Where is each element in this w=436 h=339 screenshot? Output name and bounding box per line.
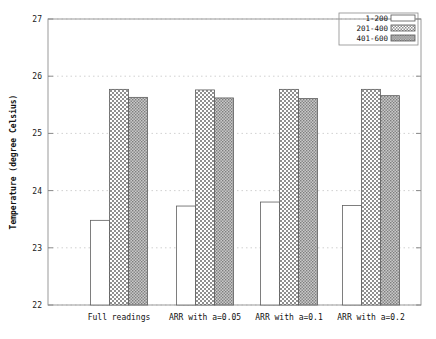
- y-tick-label: 23: [32, 244, 42, 253]
- y-tick-label: 22: [32, 301, 42, 310]
- legend-swatch-401-600: [391, 35, 415, 41]
- bar: [261, 202, 280, 305]
- y-tick-label: 24: [32, 187, 42, 196]
- bar: [280, 89, 299, 305]
- x-tick-label: Full readings: [88, 313, 151, 322]
- y-tick-label: 27: [32, 15, 42, 24]
- bar-chart: 22 23 24 25 26 27 Temperature (degree Ce…: [0, 0, 436, 339]
- x-tick-label: ARR with a=0.1: [255, 313, 323, 322]
- y-axis-title: Temperature (degree Celsius): [8, 95, 18, 230]
- legend-item-label: 401-600: [356, 34, 388, 43]
- bar: [343, 205, 362, 305]
- bar: [299, 99, 318, 305]
- bar: [381, 96, 400, 305]
- y-tick-label: 25: [32, 129, 42, 138]
- bar: [177, 206, 196, 305]
- bar: [362, 89, 381, 305]
- legend-swatch-201-400: [391, 25, 415, 31]
- legend-item-label: 201-400: [356, 24, 388, 33]
- chart-svg: 22 23 24 25 26 27 Temperature (degree Ce…: [0, 0, 436, 339]
- bar: [129, 97, 148, 305]
- bar: [110, 89, 129, 305]
- legend-swatch-1-200: [391, 15, 415, 21]
- bar: [196, 90, 215, 305]
- y-tick-label: 26: [32, 72, 42, 81]
- bar: [91, 220, 110, 305]
- x-tick-label: ARR with a=0.2: [337, 313, 405, 322]
- x-tick-label: ARR with a=0.05: [169, 313, 241, 322]
- bar: [215, 98, 234, 305]
- legend-item-label: 1-200: [365, 14, 388, 23]
